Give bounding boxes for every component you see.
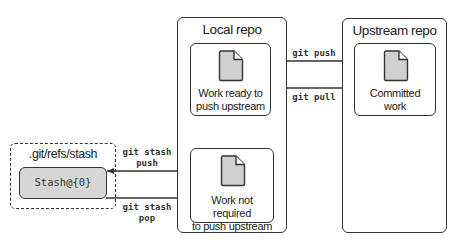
edge-label-line1: git stash [116,147,178,158]
local-repo-title: Local repo [178,22,286,37]
edge-label-git-stash-pop: git stash pop [116,202,178,224]
stash-ref-title: .git/refs/stash [11,147,115,161]
edge-label-git-push: git push [286,48,342,59]
document-icon [218,50,244,82]
card-committed-work: Committed work [354,43,436,116]
edge-label-line1: git stash [116,202,178,213]
card-label-line1: Work not required [191,194,273,220]
edge-label-line2: push [116,158,178,169]
document-icon [383,50,409,82]
card-work-not-required: Work not required to push upstream [190,148,274,223]
edge-label-line1: git pull [286,92,342,103]
document-icon [220,155,246,187]
upstream-repo-title: Upstream repo [343,23,446,38]
edge-label-git-pull: git pull [286,92,342,103]
edge-label-git-stash-push: git stash push [116,147,178,169]
card-label-line2: to push upstream [191,220,273,233]
card-work-ready: Work ready to push upstream [190,43,271,116]
edge-label-line1: git push [286,48,342,59]
edge-label-line2: pop [116,213,178,224]
stash-entry-label: Stash@{0} [35,176,92,188]
card-label-line2: push upstream [191,100,270,113]
stash-entry: Stash@{0} [19,167,107,199]
card-label-line1: Committed [355,87,435,100]
card-label-line2: work [355,100,435,113]
card-label-line1: Work ready to [191,87,270,100]
